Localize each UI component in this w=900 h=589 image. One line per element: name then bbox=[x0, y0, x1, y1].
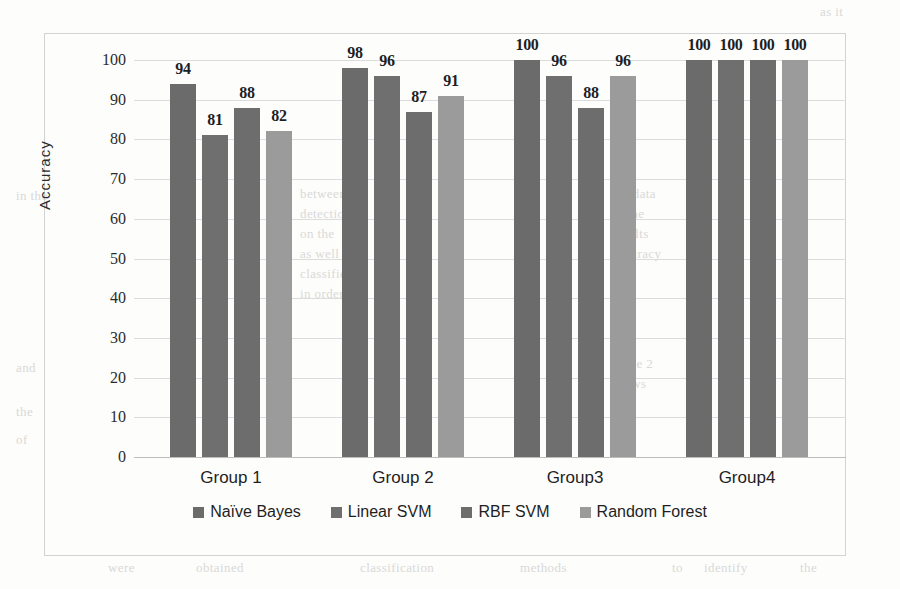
plot-area: 9481888298968791100968896100100100100 bbox=[134, 60, 846, 457]
legend-label: RBF SVM bbox=[478, 503, 549, 521]
legend-swatch-icon bbox=[461, 507, 472, 518]
bar[interactable] bbox=[170, 84, 196, 457]
bar[interactable] bbox=[546, 76, 572, 457]
bar-group: 100968896 bbox=[514, 60, 642, 457]
bar[interactable] bbox=[374, 76, 400, 457]
legend-item[interactable]: Naïve Bayes bbox=[193, 503, 301, 521]
x-axis-category-label: Group3 bbox=[515, 468, 635, 488]
bar[interactable] bbox=[438, 96, 464, 457]
bar-group: 94818882 bbox=[170, 60, 298, 457]
bleed-text: and bbox=[16, 360, 36, 376]
bar-value-label: 100 bbox=[772, 36, 818, 54]
bar[interactable] bbox=[342, 68, 368, 457]
bleed-text: as it bbox=[820, 4, 843, 20]
bar[interactable] bbox=[578, 108, 604, 457]
bar-value-label: 87 bbox=[396, 88, 442, 106]
x-axis-category-label: Group 1 bbox=[171, 468, 291, 488]
y-axis-tick-label: 50 bbox=[84, 250, 126, 268]
y-axis-tick-label: 10 bbox=[84, 408, 126, 426]
bar[interactable] bbox=[610, 76, 636, 457]
bar[interactable] bbox=[686, 60, 712, 457]
y-axis-title: Accuracy bbox=[36, 140, 53, 210]
bleed-text: to bbox=[672, 560, 683, 576]
bar-value-label: 88 bbox=[224, 84, 270, 102]
bar[interactable] bbox=[782, 60, 808, 457]
legend-swatch-icon bbox=[193, 507, 204, 518]
y-axis-tick-label: 0 bbox=[84, 448, 126, 466]
bleed-text: classification bbox=[360, 560, 434, 576]
bar-value-label: 88 bbox=[568, 84, 614, 102]
legend-label: Linear SVM bbox=[348, 503, 432, 521]
legend-label: Random Forest bbox=[597, 503, 707, 521]
bar-group: 98968791 bbox=[342, 60, 470, 457]
bleed-text: identify bbox=[704, 560, 748, 576]
bar[interactable] bbox=[750, 60, 776, 457]
bar[interactable] bbox=[514, 60, 540, 457]
bar[interactable] bbox=[234, 108, 260, 457]
x-axis-category-label: Group 2 bbox=[343, 468, 463, 488]
x-axis-line bbox=[134, 457, 846, 458]
bleed-text: were bbox=[108, 560, 135, 576]
y-axis-tick-label: 100 bbox=[84, 51, 126, 69]
legend-item[interactable]: Random Forest bbox=[580, 503, 707, 521]
y-axis-tick-label: 30 bbox=[84, 329, 126, 347]
bar[interactable] bbox=[202, 135, 228, 457]
bar-value-label: 82 bbox=[256, 107, 302, 125]
bleed-text: of bbox=[16, 432, 28, 448]
bleed-text: methods bbox=[520, 560, 567, 576]
chart-legend: Naïve BayesLinear SVMRBF SVMRandom Fores… bbox=[0, 503, 900, 521]
legend-swatch-icon bbox=[580, 507, 591, 518]
y-axis-tick-label: 40 bbox=[84, 289, 126, 307]
y-axis-tick-label: 20 bbox=[84, 369, 126, 387]
bar-value-label: 96 bbox=[600, 52, 646, 70]
y-axis-tick-label: 70 bbox=[84, 170, 126, 188]
legend-label: Naïve Bayes bbox=[210, 503, 301, 521]
y-axis-tick-label: 60 bbox=[84, 210, 126, 228]
bar-value-label: 96 bbox=[536, 52, 582, 70]
legend-item[interactable]: Linear SVM bbox=[331, 503, 432, 521]
bar[interactable] bbox=[406, 112, 432, 457]
y-axis-tick-label: 80 bbox=[84, 130, 126, 148]
bar-value-label: 96 bbox=[364, 52, 410, 70]
y-axis-ticks: 1009080706050403020100 bbox=[78, 60, 126, 457]
legend-swatch-icon bbox=[331, 507, 342, 518]
bleed-text: the bbox=[800, 560, 817, 576]
bleed-text: the bbox=[16, 404, 33, 420]
bar-value-label: 81 bbox=[192, 111, 238, 129]
bar[interactable] bbox=[266, 131, 292, 457]
bar-group: 100100100100 bbox=[686, 60, 814, 457]
bar-value-label: 94 bbox=[160, 60, 206, 78]
bar-value-label: 91 bbox=[428, 72, 474, 90]
x-axis-category-label: Group4 bbox=[687, 468, 807, 488]
legend-item[interactable]: RBF SVM bbox=[461, 503, 549, 521]
bleed-text: obtained bbox=[196, 560, 244, 576]
y-axis-tick-label: 90 bbox=[84, 91, 126, 109]
bar[interactable] bbox=[718, 60, 744, 457]
